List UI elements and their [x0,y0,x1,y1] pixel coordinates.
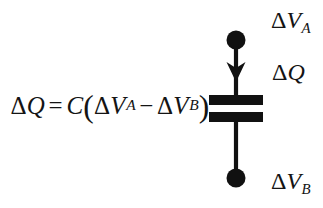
equation-capacitance-symbol: C [66,93,83,118]
equation-equals-sign: = [49,93,63,118]
label-va-delta: Δ [271,7,286,33]
equation-minus-sign: − [139,93,153,118]
capacitor-upper-plate [209,95,263,105]
equation-term1-delta: Δ [94,93,110,118]
charge-equation: ΔQ=C(ΔVA−ΔVB) [14,83,206,127]
capacitor-charge-diagram: ΔQ=C(ΔVA−ΔVB) ΔVA ΔQ ΔVB [0,0,323,208]
equation-lhs-delta: Δ [11,93,27,118]
label-vb-delta: Δ [271,168,286,194]
label-vb-subscript: B [302,181,311,197]
label-dq-symbol: Q [287,59,304,85]
label-dq-delta: Δ [272,59,287,85]
bottom-terminal-node-icon [227,169,246,188]
equation-term1-symbol: V [110,93,125,118]
label-va-symbol: V [286,7,301,33]
equation-lhs-symbol: Q [27,93,45,118]
label-va-subscript: A [302,20,311,36]
capacitor-schematic [196,0,276,208]
label-delta-v-b: ΔVB [271,169,311,197]
label-delta-q: ΔQ [272,60,305,84]
label-delta-v-a: ΔVA [271,8,311,36]
label-vb-symbol: V [286,168,301,194]
equation-term2-symbol: V [173,93,188,118]
equation-term1-subscript: A [126,97,135,113]
equation-term2-delta: Δ [157,93,173,118]
